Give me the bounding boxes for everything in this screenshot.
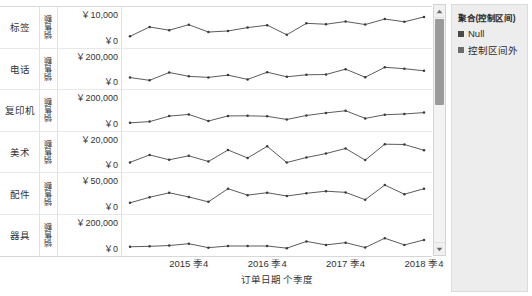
y-axis[interactable]: ￥200,000￥0: [58, 49, 122, 90]
row-category-label[interactable]: 标签: [0, 7, 40, 48]
data-point[interactable]: [148, 79, 151, 81]
data-point[interactable]: [188, 23, 191, 25]
vertical-scrollbar[interactable]: [433, 4, 446, 256]
data-point[interactable]: [344, 192, 347, 194]
data-point[interactable]: [148, 196, 151, 198]
data-point[interactable]: [188, 75, 191, 77]
scroll-up-button[interactable]: [434, 5, 445, 18]
data-point[interactable]: [129, 245, 132, 247]
data-point[interactable]: [286, 195, 289, 197]
line-chart-panel[interactable]: [122, 90, 432, 131]
data-point[interactable]: [207, 31, 210, 33]
data-point[interactable]: [344, 147, 347, 149]
data-point[interactable]: [403, 193, 406, 195]
line-chart-panel[interactable]: [122, 173, 432, 214]
data-point[interactable]: [246, 156, 249, 158]
data-point[interactable]: [325, 73, 328, 75]
data-point[interactable]: [148, 245, 151, 247]
legend-item[interactable]: Null: [458, 28, 522, 39]
line-chart-panel[interactable]: [122, 49, 432, 90]
data-point[interactable]: [168, 244, 171, 246]
data-point[interactable]: [423, 112, 426, 114]
data-point[interactable]: [286, 247, 289, 249]
data-point[interactable]: [423, 69, 426, 71]
data-point[interactable]: [364, 159, 367, 161]
data-point[interactable]: [364, 76, 367, 78]
data-point[interactable]: [305, 192, 308, 194]
data-point[interactable]: [364, 246, 367, 248]
data-point[interactable]: [403, 67, 406, 69]
data-point[interactable]: [423, 149, 426, 151]
data-point[interactable]: [364, 117, 367, 119]
data-point[interactable]: [266, 245, 269, 247]
data-point[interactable]: [148, 121, 151, 123]
data-point[interactable]: [266, 192, 269, 194]
data-point[interactable]: [364, 23, 367, 25]
data-point[interactable]: [168, 192, 171, 194]
data-point[interactable]: [207, 76, 210, 78]
data-point[interactable]: [325, 244, 328, 246]
data-point[interactable]: [188, 196, 191, 198]
data-point[interactable]: [384, 184, 387, 186]
data-point[interactable]: [305, 240, 308, 242]
data-point[interactable]: [384, 237, 387, 239]
data-point[interactable]: [129, 122, 132, 124]
line-chart-panel[interactable]: [122, 7, 432, 48]
data-point[interactable]: [168, 29, 171, 31]
data-point[interactable]: [325, 112, 328, 114]
data-point[interactable]: [384, 66, 387, 68]
data-point[interactable]: [129, 35, 132, 37]
row-category-label[interactable]: 器具: [0, 215, 40, 256]
data-point[interactable]: [227, 73, 230, 75]
data-point[interactable]: [286, 75, 289, 77]
data-point[interactable]: [403, 113, 406, 115]
data-point[interactable]: [344, 20, 347, 22]
data-point[interactable]: [129, 202, 132, 204]
data-point[interactable]: [188, 154, 191, 156]
y-axis[interactable]: ￥50,000￥0: [58, 173, 122, 214]
data-point[interactable]: [344, 241, 347, 243]
y-axis[interactable]: ￥10,000￥0: [58, 7, 122, 48]
data-point[interactable]: [207, 246, 210, 248]
data-point[interactable]: [403, 21, 406, 23]
legend-item[interactable]: 控制区间外: [458, 43, 522, 57]
data-point[interactable]: [227, 149, 230, 151]
row-category-label[interactable]: 美术: [0, 132, 40, 173]
data-point[interactable]: [325, 190, 328, 192]
data-point[interactable]: [423, 16, 426, 18]
row-category-label[interactable]: 电话: [0, 49, 40, 90]
data-point[interactable]: [246, 194, 249, 196]
data-point[interactable]: [286, 161, 289, 163]
data-point[interactable]: [148, 153, 151, 155]
data-point[interactable]: [305, 114, 308, 116]
data-point[interactable]: [305, 73, 308, 75]
data-point[interactable]: [325, 152, 328, 154]
scrollbar-thumb[interactable]: [435, 19, 444, 105]
line-chart-panel[interactable]: [122, 132, 432, 173]
data-point[interactable]: [344, 67, 347, 69]
data-point[interactable]: [148, 26, 151, 28]
data-point[interactable]: [207, 160, 210, 162]
data-point[interactable]: [246, 245, 249, 247]
data-point[interactable]: [168, 158, 171, 160]
data-point[interactable]: [384, 114, 387, 116]
data-point[interactable]: [266, 145, 269, 147]
data-point[interactable]: [305, 156, 308, 158]
data-point[interactable]: [168, 71, 171, 73]
data-point[interactable]: [207, 201, 210, 203]
row-category-label[interactable]: 配件: [0, 173, 40, 214]
row-category-label[interactable]: 复印机: [0, 90, 40, 131]
data-point[interactable]: [227, 30, 230, 32]
data-point[interactable]: [266, 24, 269, 26]
data-point[interactable]: [305, 22, 308, 24]
data-point[interactable]: [266, 115, 269, 117]
data-point[interactable]: [227, 188, 230, 190]
data-point[interactable]: [227, 245, 230, 247]
data-point[interactable]: [188, 242, 191, 244]
data-point[interactable]: [384, 143, 387, 145]
data-point[interactable]: [129, 76, 132, 78]
data-point[interactable]: [266, 71, 269, 73]
data-point[interactable]: [246, 115, 249, 117]
data-point[interactable]: [423, 188, 426, 190]
y-axis[interactable]: ￥200,000￥0: [58, 215, 122, 256]
